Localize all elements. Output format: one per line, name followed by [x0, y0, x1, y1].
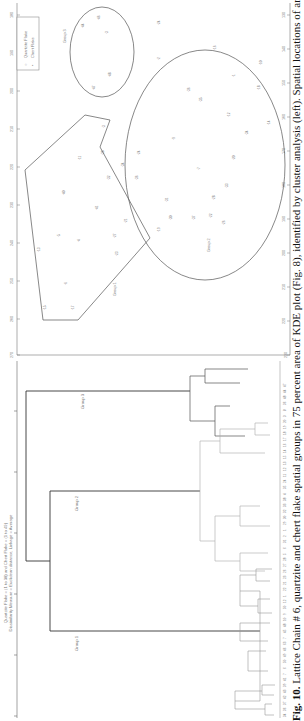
leaf-label: 43	[283, 689, 287, 693]
y-tick: 250	[10, 278, 14, 284]
svg-text:·28: ·28	[212, 195, 216, 200]
leaf-label: 12	[283, 467, 287, 471]
scatter-group-1-label: Group 1	[113, 282, 117, 296]
legend-chert-symbol: •	[30, 64, 35, 66]
leaf-label: 15	[283, 455, 287, 459]
leaf-label: 3	[283, 415, 287, 417]
leaf-label: 1	[283, 595, 287, 597]
svg-text:·40: ·40	[62, 190, 66, 195]
svg-text:·19: ·19	[157, 227, 161, 232]
svg-text:·12: ·12	[227, 112, 231, 117]
svg-text:·9: ·9	[172, 137, 176, 140]
leaf-label: 2	[283, 535, 287, 537]
svg-text:·11: ·11	[78, 155, 82, 160]
leaf-label: 42	[283, 695, 287, 699]
svg-text:·36: ·36	[187, 87, 191, 92]
svg-text:·16: ·16	[213, 45, 217, 50]
svg-text:·36: ·36	[135, 175, 139, 180]
leaf-label: 20	[283, 419, 287, 423]
y-tick: 240	[10, 240, 14, 246]
leaf-label: 31	[283, 539, 287, 543]
y-tick: 260	[10, 316, 14, 322]
leaf-label: 19	[283, 425, 287, 429]
leaf-label: 4	[283, 493, 287, 495]
dendrogram-group-2-label: Group 2	[74, 495, 79, 511]
dendrogram-title-2: Dissimilarity Measure = Euclidean distan…	[8, 514, 13, 631]
svg-text:·14: ·14	[267, 120, 271, 125]
leaf-label: 24	[283, 479, 287, 483]
svg-text:·44: ·44	[81, 23, 85, 28]
leaf-label: 9	[283, 613, 287, 615]
leaf-label: 39	[283, 683, 287, 687]
legend-chert-label: Chert Flake	[30, 37, 35, 58]
leaf-label: 26	[283, 569, 287, 573]
y-tick: 270	[10, 352, 14, 358]
group-1-boundary	[25, 115, 150, 320]
leaf-label: 5	[283, 553, 287, 555]
leaf-label: 7	[283, 637, 287, 639]
y-tick: 210	[10, 126, 14, 132]
y-tick: 200	[10, 88, 14, 94]
svg-text:·4: ·4	[77, 239, 81, 242]
leaf-label: 48	[283, 623, 287, 627]
leaf-label: 1	[283, 529, 287, 531]
leaf-label: 18	[283, 431, 287, 435]
leaf-label: 47	[283, 383, 287, 387]
svg-text:·18: ·18	[257, 85, 261, 90]
leaf-label: 49	[283, 653, 287, 657]
leaf-label: 45	[283, 629, 287, 633]
leaf-label: 41	[283, 677, 287, 681]
svg-text:·1: ·1	[232, 74, 236, 77]
legend-quartzite-label: Quartzite Flake	[23, 30, 28, 58]
group-3-boundary	[70, 7, 134, 97]
svg-text:·46: ·46	[97, 15, 101, 20]
svg-text:·35: ·35	[199, 97, 203, 102]
x-tick: 150	[282, 80, 286, 86]
leaf-label: 12	[283, 599, 287, 603]
svg-text:·47: ·47	[92, 85, 96, 90]
leaf-label: 36	[283, 707, 287, 711]
scatter-plot: 180 190 200 210 220 230 240 250 260 270	[0, 0, 292, 360]
x-tick: 230	[284, 352, 288, 358]
svg-text:·17: ·17	[71, 305, 75, 310]
svg-text:·33: ·33	[225, 183, 229, 188]
leaf-label: 34	[283, 713, 287, 717]
leaf-label: 22	[283, 587, 287, 591]
x-tick: 210	[282, 284, 286, 290]
svg-text:·7: ·7	[197, 167, 201, 170]
legend: ○ Quartzite Flake • Chert Flake	[17, 17, 39, 70]
y-tick: 190	[10, 50, 14, 56]
leaf-label: 17	[283, 437, 287, 441]
leaf-label: 50	[283, 659, 287, 663]
svg-text:·24: ·24	[137, 150, 141, 155]
svg-text:·13: ·13	[37, 247, 41, 252]
svg-text:·2: ·2	[157, 57, 161, 60]
leaf-label: 7	[283, 673, 287, 675]
leaf-label: 27	[283, 563, 287, 567]
x-tick: 220	[282, 318, 286, 324]
svg-text:·6: ·6	[64, 282, 68, 285]
svg-text:·31: ·31	[165, 197, 169, 202]
svg-text:·3: ·3	[105, 31, 109, 34]
leaf-label: 35	[283, 485, 287, 489]
leaf-label: 10	[283, 617, 287, 621]
leaf-label: 46	[283, 647, 287, 651]
leaf-label: 36	[283, 401, 287, 405]
svg-text:·27: ·27	[113, 233, 117, 238]
x-tick: 160	[282, 114, 286, 120]
svg-text:·22: ·22	[209, 213, 213, 218]
leaf-label: 48	[283, 395, 287, 399]
x-tick: 190	[282, 216, 286, 222]
svg-text:·26: ·26	[222, 220, 226, 225]
leaf-label: 29	[283, 521, 287, 525]
leaf-label: 14	[283, 449, 287, 453]
leaf-label: 13	[283, 461, 287, 465]
leaf-label: 38	[283, 497, 287, 501]
figure-page: Quartzite Flake = (1 to 38) and Chert Fl…	[0, 0, 304, 721]
figure-number: Fig. 10.	[290, 686, 302, 721]
x-tick: 140	[282, 46, 286, 52]
leaf-label: 44	[283, 389, 287, 393]
svg-text:·10: ·10	[259, 60, 263, 65]
svg-text:·30: ·30	[169, 215, 173, 220]
svg-text:·20: ·20	[232, 155, 236, 160]
